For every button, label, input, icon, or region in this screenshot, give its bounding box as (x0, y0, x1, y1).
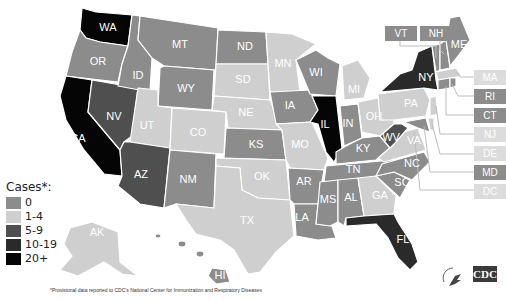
legend-swatch (6, 211, 21, 223)
legend-swatch (6, 197, 21, 209)
label-PA: PA (404, 97, 419, 109)
label-AR: AR (296, 175, 311, 187)
label-MI: MI (348, 83, 360, 95)
label-NM: NM (179, 173, 196, 185)
label-FL: FL (397, 233, 410, 245)
label-IN: IN (343, 117, 354, 129)
label-GA: GA (372, 189, 389, 201)
footnote: *Provisional data reported to CDC's Nati… (50, 287, 262, 293)
label-ID: ID (133, 69, 144, 81)
callout-VT[interactable]: VT (385, 26, 417, 41)
legend-item-4: 20+ (6, 252, 57, 265)
state-HI-island (178, 241, 186, 247)
label-AK: AK (90, 226, 105, 238)
state-HI-island (196, 251, 204, 257)
legend-label: 0 (25, 196, 32, 209)
callout-MA[interactable]: MA (474, 70, 506, 85)
label-KY: KY (356, 142, 371, 154)
label-MS: MS (320, 193, 337, 205)
legend-item-0: 0 (6, 196, 57, 209)
state-NY[interactable] (380, 46, 438, 92)
label-IL: IL (320, 118, 329, 130)
callout-CT[interactable]: CT (474, 108, 506, 123)
label-WV: WV (382, 131, 400, 143)
legend-label: 10-19 (25, 238, 57, 251)
callout-DC[interactable]: DC (474, 184, 506, 199)
legend-item-3: 10-19 (6, 238, 57, 251)
hhs-eagle-icon (441, 266, 465, 290)
label-ME: ME (451, 38, 468, 50)
label-CO: CO (190, 126, 207, 138)
state-HI-island (155, 234, 161, 238)
legend-title: Cases*: (6, 180, 57, 194)
label-CA: CA (70, 132, 86, 144)
label-AL: AL (344, 191, 357, 203)
legend-item-2: 5-9 (6, 224, 57, 237)
label-HI: HI (215, 269, 226, 281)
label-MO: MO (291, 138, 309, 150)
label-SD: SD (235, 73, 250, 85)
cdc-logo: CDC (473, 266, 497, 282)
label-SC: SC (394, 176, 409, 188)
label-UT: UT (140, 119, 155, 131)
label-OR: OR (90, 55, 107, 67)
legend-label: 20+ (25, 252, 48, 265)
callout-RI[interactable]: RI (474, 89, 506, 104)
label-OK: OK (254, 170, 271, 182)
label-TX: TX (240, 214, 255, 226)
label-VA: VA (407, 134, 422, 146)
legend-swatch (6, 253, 21, 265)
label-MN: MN (274, 57, 291, 69)
label-MT: MT (172, 38, 188, 50)
label-NE: NE (238, 106, 253, 118)
label-LA: LA (295, 211, 309, 223)
label-IA: IA (285, 99, 296, 111)
label-NC: NC (404, 157, 420, 169)
callout-DE[interactable]: DE (474, 146, 506, 161)
state-CT[interactable] (438, 78, 450, 90)
label-KS: KS (249, 138, 264, 150)
label-WA: WA (99, 21, 117, 33)
legend: Cases*: 0 1-4 5-9 10-19 20+ (6, 180, 57, 266)
label-TN: TN (346, 163, 361, 175)
label-WY: WY (177, 82, 195, 94)
callout-MD[interactable]: MD (474, 165, 506, 180)
callout-NJ[interactable]: NJ (474, 127, 506, 142)
label-OH: OH (366, 110, 383, 122)
label-WI: WI (309, 66, 322, 78)
legend-label: 1-4 (25, 210, 43, 223)
label-AZ: AZ (134, 168, 148, 180)
label-NY: NY (418, 71, 434, 83)
label-ND: ND (237, 40, 253, 52)
legend-label: 5-9 (25, 224, 43, 237)
label-NV: NV (106, 110, 122, 122)
legend-swatch (6, 225, 21, 237)
legend-swatch (6, 239, 21, 251)
callout-NH[interactable]: NH (420, 26, 452, 41)
legend-item-1: 1-4 (6, 210, 57, 223)
